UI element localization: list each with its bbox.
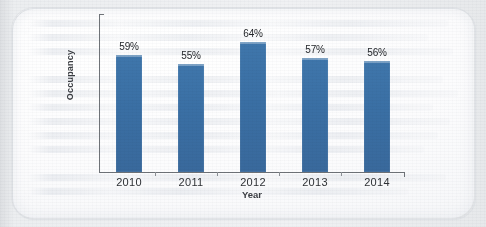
bar-top-highlight [240, 42, 266, 44]
scanned-page-canvas: Occupancy Year 59% 2010 55% 2011 64% 201… [0, 0, 486, 227]
y-axis-title: Occupancy [65, 15, 75, 135]
x-tick-label-2013: 2013 [287, 176, 343, 188]
bar-top-highlight [116, 55, 142, 57]
bar-2013[interactable] [302, 58, 328, 172]
y-axis-line [99, 14, 100, 172]
x-tick-label-2011: 2011 [163, 176, 219, 188]
bar-value-label-2011: 55% [171, 50, 211, 61]
bar-2010[interactable] [116, 55, 142, 172]
bar-value-label-2013: 57% [295, 44, 335, 55]
bar-top-highlight [302, 58, 328, 60]
bar-value-label-2012: 64% [233, 28, 273, 39]
x-tick-label-2014: 2014 [349, 176, 405, 188]
x-tick-label-2010: 2010 [101, 176, 157, 188]
y-axis-top-cap [99, 14, 104, 15]
bar-value-label-2010: 59% [109, 41, 149, 52]
bar-top-highlight [178, 64, 204, 66]
bar-2012[interactable] [240, 42, 266, 172]
bar-value-label-2014: 56% [357, 47, 397, 58]
x-axis-line [99, 172, 405, 173]
x-axis-title: Year [99, 189, 405, 200]
bar-top-highlight [364, 61, 390, 63]
bar-2011[interactable] [178, 64, 204, 172]
x-tick-label-2012: 2012 [225, 176, 281, 188]
bar-2014[interactable] [364, 61, 390, 172]
occupancy-bar-chart: Occupancy Year 59% 2010 55% 2011 64% 201… [12, 8, 474, 218]
